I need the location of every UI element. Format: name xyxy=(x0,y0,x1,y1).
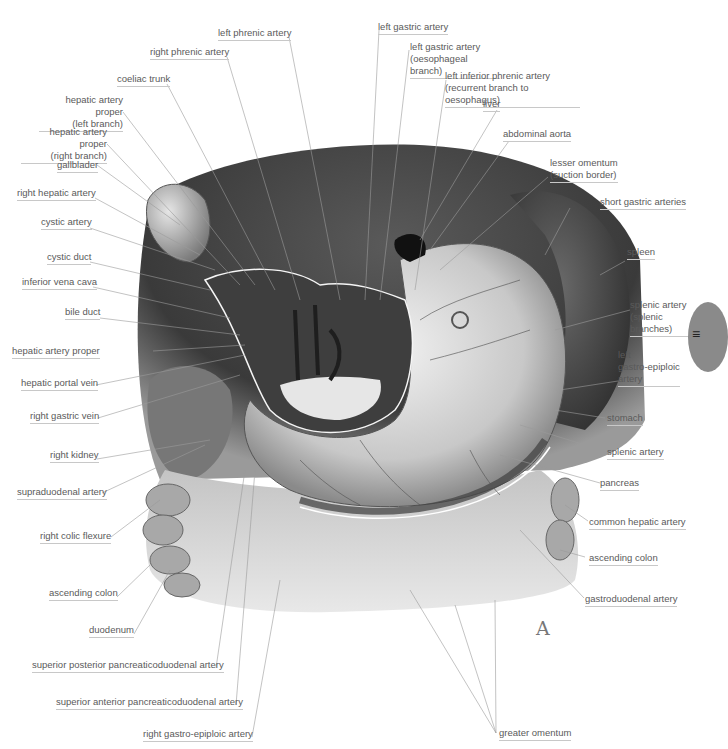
label-common-hepatic-artery: common hepatic artery xyxy=(589,516,686,530)
label-stomach: stomach xyxy=(607,412,643,426)
label-bile-duct: bile duct xyxy=(65,306,100,320)
label-right-phrenic-artery: right phrenic artery xyxy=(150,46,229,60)
label-right-colic-flexure: right colic flexure xyxy=(40,530,111,544)
label-right-kidney: right kidney xyxy=(50,449,99,463)
label-line: (recurrent branch to oesophagus) xyxy=(445,82,580,106)
label-ascending-colon-left: ascending colon xyxy=(49,587,118,601)
label-right-gastro-epiploic-artery: right gastro-epiploic artery xyxy=(143,728,253,742)
label-coeliac-trunk: coeliac trunk xyxy=(117,73,170,87)
label-gastroduodenal-artery: gastroduodenal artery xyxy=(585,593,677,607)
label-line: branches) xyxy=(630,323,690,335)
label-line: hepatic artery proper xyxy=(21,126,107,150)
edge-tab[interactable]: ≡ xyxy=(688,302,728,372)
label-right-hepatic-artery: right hepatic artery xyxy=(17,187,96,201)
label-superior-anterior-pancreaticoduodenal-artery: superior anterior pancreaticoduodenal ar… xyxy=(56,696,243,710)
label-line: (splenic xyxy=(630,311,690,323)
label-splenic-artery: splenic artery xyxy=(607,446,664,460)
label-lesser-omentum-suction-border: lesser omentum (suction border) xyxy=(550,157,618,183)
label-left-gastric-artery: left gastric artery xyxy=(378,21,448,35)
label-left-phrenic-artery: left phrenic artery xyxy=(218,27,291,41)
menu-lines-icon: ≡ xyxy=(692,326,700,342)
label-line: left gastric artery xyxy=(410,41,500,53)
label-greater-omentum: greater omentum xyxy=(499,727,571,741)
label-hepatic-portal-vein: hepatic portal vein xyxy=(21,377,98,391)
label-line: artery xyxy=(618,373,680,385)
label-line: (suction border) xyxy=(550,169,618,181)
label-hepatic-artery-proper: hepatic artery proper xyxy=(12,345,100,359)
label-gallbladder: gallblader xyxy=(57,159,98,173)
label-ascending-colon-right: ascending colon xyxy=(589,552,658,566)
label-line: left xyxy=(618,349,680,361)
label-abdominal-aorta: abdominal aorta xyxy=(503,128,571,142)
label-supraduodenal-artery: supraduodenal artery xyxy=(17,486,107,500)
label-spleen: spleen xyxy=(627,246,655,260)
label-cystic-duct: cystic duct xyxy=(47,251,91,265)
label-short-gastric-arteries: short gastric arteries xyxy=(600,196,686,210)
label-line: splenic artery xyxy=(630,299,690,311)
label-line: lesser omentum xyxy=(550,157,618,169)
label-line: hepatic artery proper xyxy=(39,94,123,118)
label-superior-posterior-pancreaticoduodenal-artery: superior posterior pancreaticoduodenal a… xyxy=(32,659,224,673)
label-right-gastric-vein: right gastric vein xyxy=(30,410,99,424)
label-left-inferior-phrenic-artery: left inferior phrenic artery (recurrent … xyxy=(445,70,580,108)
label-pancreas: pancreas xyxy=(600,477,639,491)
label-line: left inferior phrenic artery xyxy=(445,70,580,82)
label-left-gastro-epiploic-artery: left gastro-epiploic artery xyxy=(618,349,680,387)
label-inferior-vena-cava: inferior vena cava xyxy=(22,276,97,290)
figure-letter: A xyxy=(536,617,550,639)
label-liver: liver xyxy=(483,98,500,112)
label-duodenum: duodenum xyxy=(89,624,134,638)
label-line: gastro-epiploic xyxy=(618,361,680,373)
label-cystic-artery: cystic artery xyxy=(41,216,92,230)
label-splenic-artery-splenic-branches: splenic artery (splenic branches) xyxy=(630,299,690,337)
